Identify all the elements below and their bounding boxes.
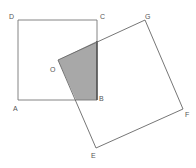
label-c: C	[100, 13, 105, 20]
label-f: F	[185, 111, 189, 118]
label-d: D	[9, 13, 14, 20]
label-a: A	[13, 105, 18, 112]
label-b: B	[99, 95, 104, 102]
geometry-diagram: D C G O B A F E	[0, 0, 196, 168]
label-g: G	[145, 13, 150, 20]
label-o: O	[50, 66, 56, 73]
shaded-overlap-region	[58, 41, 97, 100]
label-e: E	[91, 152, 96, 159]
